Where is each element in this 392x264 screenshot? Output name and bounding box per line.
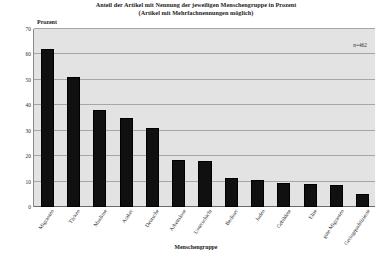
bar [93,110,106,207]
sample-size-annotation: n=462 [353,42,367,48]
x-tick-label: Arbeitslose [168,208,187,232]
plot-inner: 010203040506070 [34,29,375,207]
y-tick-label: 10 [26,179,31,185]
gridline [34,104,375,105]
bar [277,183,290,207]
x-tick-label-text: Araber [121,208,135,224]
bar [198,161,211,207]
x-tick-label: Deutsche [144,208,160,228]
x-tick-label: Araber [121,208,135,224]
bar [120,118,133,207]
x-tick-label: Elite [307,208,318,220]
x-tick-label: Berliner [224,208,239,226]
x-tick-label: Türken [68,208,82,225]
x-tick-label-text: Juden [253,208,265,222]
bar [251,180,264,207]
y-tick-label: 0 [28,204,31,210]
gridline [34,130,375,131]
bar [67,77,80,207]
y-tick-label: 60 [26,51,31,57]
bar [41,49,54,207]
plot-area: 010203040506070 n=462 [33,29,375,207]
x-tick-label-text: Migranten [37,208,55,230]
x-tick-label-text: Berliner [224,208,239,226]
bar [146,128,159,207]
x-tick-label: gute Migranten [321,208,345,239]
x-tick-label-text: Türken [68,208,82,225]
x-tick-label: Migranten [37,208,55,230]
x-tick-label: Geringqualifizierte [342,208,370,246]
gridline [34,79,375,80]
bar [304,184,317,207]
chart-figure: Anteil der Artikel mit Nennung der jewei… [0,0,392,264]
y-tick-label: 40 [26,102,31,108]
x-tick-label-text: Deutsche [144,208,160,228]
gridline [34,53,375,54]
chart-title-line2: (Artikel mit Mehrfachnennungen möglich) [0,9,392,17]
y-tick-label: 70 [26,26,31,32]
gridline [34,28,375,29]
y-tick-label: 50 [26,77,31,83]
x-tick-label-text: Arbeitslose [168,208,187,232]
bar [356,194,369,207]
y-tick-label: 30 [26,128,31,134]
gridline [34,155,375,156]
x-tick-label: Gebildete [275,208,292,229]
x-tick-label-text: Elite [307,208,318,220]
chart-title: Anteil der Artikel mit Nennung der jewei… [0,1,392,17]
y-axis-title: Prozent [37,19,57,25]
x-tick-label-text: gute Migranten [321,208,345,239]
x-tick-label-text: Gebildete [275,208,292,229]
bar [330,185,343,207]
x-tick-label-text: Unterschicht [192,208,213,235]
chart-title-line1: Anteil der Artikel mit Nennung der jewei… [0,1,392,9]
x-axis-title: Menschengruppe [0,244,392,250]
x-tick-label-text: Geringqualifizierte [342,208,370,246]
bar [172,160,185,207]
x-tick-label: Juden [253,208,265,222]
x-tick-label: Unterschicht [192,208,213,235]
x-tick-label-text: Muslime [92,208,108,228]
y-tick-label: 20 [26,153,31,159]
x-tick-label: Muslime [92,208,108,228]
bar [225,178,238,207]
